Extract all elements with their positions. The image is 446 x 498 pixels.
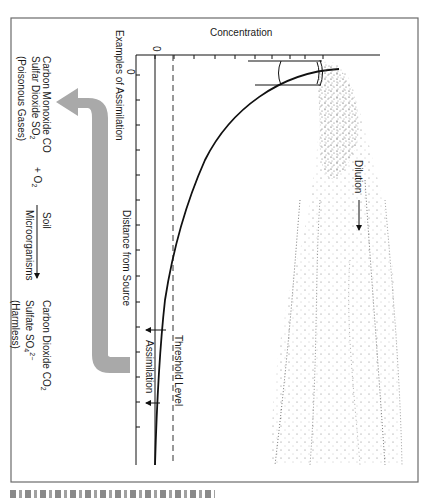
product-note: (Harmless) — [10, 300, 21, 391]
dilution-label: Dilution — [353, 160, 364, 193]
distance-axis — [136, 55, 140, 465]
smoke-plume — [272, 61, 402, 465]
product-sulfate: Sulfate SO42− — [21, 300, 38, 391]
reactant-note: (Poisonous Gases) — [16, 56, 27, 153]
catalyst-microorganisms: Microorganisms — [24, 210, 35, 281]
assimilation-label: Assimilation — [144, 340, 155, 393]
reactants-block: Carbon Monoxide CO Sulfar Dioxide SO2 (P… — [16, 56, 52, 153]
plus-oxygen: + O2 — [29, 167, 43, 187]
distance-axis-label: Distance from Source — [121, 210, 132, 306]
distance-zero-label: 0 — [125, 69, 136, 75]
threshold-level-label: Threshold Level — [173, 335, 184, 406]
concentration-zero-label: 0 — [151, 46, 162, 52]
pollution-dilution-figure: Concentration 0 0 Examples of Assimilati… — [0, 0, 446, 498]
concentration-axis-label: Concentration — [210, 27, 272, 38]
reactant-so2: Sulfar Dioxide SO2 — [27, 56, 41, 153]
reactant-co: Carbon Monoxide CO — [41, 56, 52, 153]
figure-graphics — [0, 0, 446, 498]
product-co2: Carbon Dioxide CO2 — [38, 300, 52, 391]
products-block: Carbon Dioxide CO2 Sulfate SO42− (Harmle… — [10, 300, 52, 391]
cropped-caption-strip — [10, 490, 215, 498]
examples-of-assimilation-label: Examples of Assimilation — [114, 30, 125, 141]
catalyst-soil: Soil — [41, 212, 52, 229]
